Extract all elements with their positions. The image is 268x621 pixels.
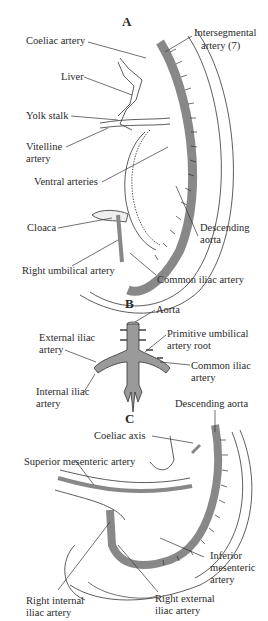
label-descending-1: Descending — [200, 222, 250, 234]
label-primitive-umbilical-1: Primitive umbilical — [167, 328, 248, 340]
embryo-artery-diagram — [0, 0, 268, 621]
label-external-iliac-1: External iliac — [39, 332, 95, 344]
label-liver: Liver — [61, 71, 84, 83]
label-intersegmental-2: artery (7) — [201, 40, 240, 52]
label-inferior-mesenteric-1: Inferior — [210, 550, 242, 562]
label-right-umbilical: Right umbilical artery — [22, 265, 115, 277]
label-intersegmental-1: Intersegmental — [194, 27, 256, 39]
label-common-iliac-b-1: Common iliac — [191, 360, 251, 372]
label-vitelline-1: Vitelline — [26, 141, 62, 153]
label-right-internal-iliac-2: iliac artery — [26, 607, 71, 619]
label-right-internal-iliac-1: Right internal — [26, 595, 84, 607]
panel-b-drawing — [94, 322, 170, 412]
label-cloaca: Cloaca — [27, 222, 56, 234]
label-aorta: Aorta — [156, 304, 180, 316]
label-coeliac-artery: Coeliac artery — [26, 35, 85, 47]
panel-a-title: A — [122, 14, 131, 30]
label-inferior-mesenteric-2: mesenteric — [210, 562, 255, 574]
label-inferior-mesenteric-3: artery — [210, 574, 234, 586]
label-primitive-umbilical-2: artery root — [167, 340, 211, 352]
label-common-iliac-a: Common iliac artery — [157, 274, 244, 286]
label-internal-iliac-2: artery — [36, 398, 60, 410]
label-external-iliac-2: artery — [39, 344, 63, 356]
label-descending-aorta-c: Descending aorta — [175, 398, 248, 410]
label-right-external-iliac-2: iliac artery — [155, 605, 200, 617]
panel-c-title: C — [125, 411, 134, 427]
panel-b-title: B — [125, 296, 134, 312]
label-superior-mesenteric: Superior mesenteric artery — [24, 456, 135, 468]
label-internal-iliac-1: Internal iliac — [36, 386, 89, 398]
label-right-external-iliac-1: Right external — [155, 593, 215, 605]
label-common-iliac-b-2: artery — [191, 372, 215, 384]
label-descending-2: aorta — [200, 234, 221, 246]
label-yolk-stalk: Yolk stalk — [26, 110, 68, 122]
label-coeliac-axis: Coeliac axis — [94, 430, 146, 442]
label-ventral-arteries: Ventral arteries — [34, 176, 98, 188]
label-vitelline-2: artery — [26, 153, 50, 165]
